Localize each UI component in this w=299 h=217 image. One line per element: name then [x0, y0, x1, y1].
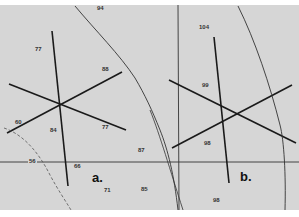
- value-label: 87: [138, 147, 145, 153]
- map-lines: [0, 0, 299, 217]
- value-label: 60: [15, 119, 22, 125]
- contour-curve-a: [75, 6, 178, 210]
- value-label: 98: [213, 197, 220, 203]
- panel-label-a: a.: [92, 171, 103, 184]
- panel-b-line-3: [172, 85, 292, 148]
- value-label: 85: [141, 186, 148, 192]
- value-label: 66: [74, 163, 81, 169]
- value-label: 84: [50, 127, 57, 133]
- contour-curve-b-left: [150, 110, 183, 210]
- value-label: 88: [102, 66, 109, 72]
- panel-label-b: b.: [240, 170, 252, 183]
- dashed-contour-curve: [4, 128, 71, 210]
- value-label: 77: [35, 46, 42, 52]
- panel-divider-line: [178, 5, 179, 210]
- value-label: 71: [104, 187, 111, 193]
- map-figure: 94 77 88 60 84 77 87 56 66 71 85 104 99 …: [0, 0, 299, 217]
- value-label: 98: [204, 140, 211, 146]
- value-label: 94: [97, 5, 104, 11]
- panel-b-line-1: [214, 37, 229, 183]
- value-label: 77: [102, 124, 109, 130]
- value-label: 104: [199, 24, 209, 30]
- value-label: 99: [202, 82, 209, 88]
- value-label: 56: [28, 158, 37, 164]
